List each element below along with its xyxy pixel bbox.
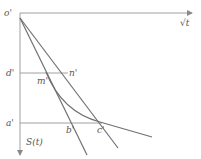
origin-label: o' — [4, 8, 12, 18]
b-label: b' — [66, 125, 74, 135]
c-label: c' — [97, 125, 105, 135]
n-label: n' — [69, 68, 77, 78]
diagram-canvas: o' √t S(t) d' a' n' m' b' c' — [0, 0, 201, 159]
a-label: a' — [6, 118, 14, 128]
m-label: m' — [37, 76, 48, 86]
y-axis-label: S(t) — [26, 137, 43, 147]
x-axis-label: √t — [180, 18, 190, 28]
d-label: d' — [6, 68, 14, 78]
